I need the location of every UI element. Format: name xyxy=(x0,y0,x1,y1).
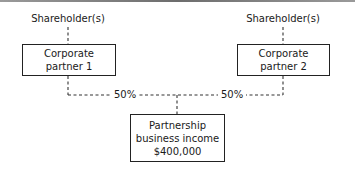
corporate-partner-1-box: Corporate partner 1 xyxy=(22,44,116,76)
corporate-partner-2-box: Corporate partner 2 xyxy=(237,44,330,76)
ownership-percent-2: 50% xyxy=(218,89,246,101)
partnership-income-box: Partnership business income $400,000 xyxy=(130,114,225,162)
shareholder-label-1: Shareholder(s) xyxy=(28,13,108,25)
ownership-percent-1: 50% xyxy=(111,89,139,101)
partnership-income-amount: $400,000 xyxy=(154,145,202,158)
shareholder-label-2: Shareholder(s) xyxy=(243,13,323,25)
partnership-line2: business income xyxy=(136,132,219,145)
corporate-partner-2-line2: partner 2 xyxy=(260,60,307,73)
corporate-partner-1-line2: partner 1 xyxy=(46,60,93,73)
partnership-line1: Partnership xyxy=(149,119,206,132)
corporate-partner-2-line1: Corporate xyxy=(259,47,309,60)
corporate-partner-1-line1: Corporate xyxy=(44,47,94,60)
